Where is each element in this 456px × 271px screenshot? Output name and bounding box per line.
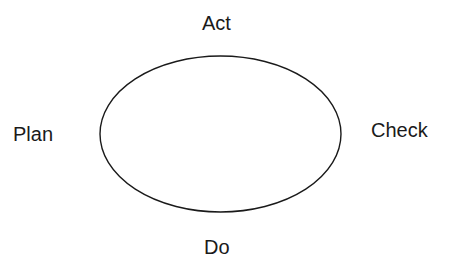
label-plan: Plan [13, 124, 53, 144]
label-do: Do [204, 237, 230, 257]
label-check: Check [371, 120, 428, 140]
cycle-ellipse [100, 56, 341, 212]
label-act: Act [202, 13, 231, 33]
